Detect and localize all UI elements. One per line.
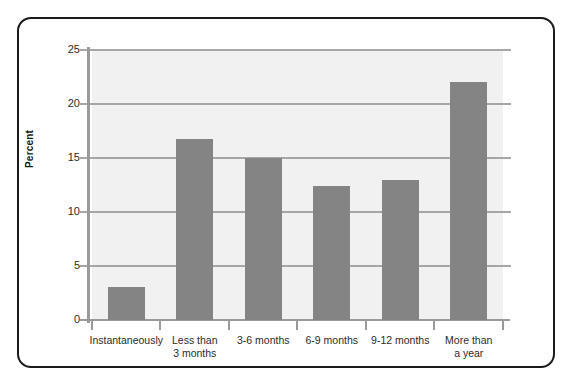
y-tick-5: 5: [44, 260, 80, 272]
y-tick-15: 15: [44, 152, 80, 164]
bar-less-than-3-months: [176, 139, 213, 320]
bar-more-than-a-year: [450, 82, 487, 320]
gridline-10: [80, 211, 511, 213]
y-tick-label-10: 10: [44, 206, 80, 217]
y-axis-title: Percent: [24, 130, 35, 168]
x-tick-4: [365, 321, 367, 330]
x-label-more-than-a-year: More than a year: [421, 334, 517, 359]
plot-area: [92, 50, 503, 320]
x-tick-3: [296, 321, 298, 330]
y-tick-label-20: 20: [44, 98, 80, 109]
bar-3-6-months: [245, 158, 282, 320]
y-tick-label-25: 25: [44, 44, 80, 55]
y-tick-label-0: 0: [44, 314, 80, 325]
x-tick-5: [433, 321, 435, 330]
y-tick-label-15: 15: [44, 152, 80, 163]
y-tick-10: 10: [44, 206, 80, 218]
x-tick-6: [502, 321, 504, 330]
bar-instantaneously: [108, 287, 145, 320]
x-tick-0: [91, 321, 93, 330]
y-tick-20: 20: [44, 98, 80, 110]
y-tick-25: 25: [44, 44, 80, 56]
y-tick-label-5: 5: [44, 260, 80, 271]
bar-chart-figure: 25 20 15 10 5 0 Percent Instantaneously …: [0, 0, 579, 390]
x-tick-1: [159, 321, 161, 330]
y-axis-line: [87, 47, 90, 323]
gridline-15: [80, 157, 511, 159]
x-tick-2: [228, 321, 230, 330]
bar-9-12-months: [382, 180, 419, 320]
gridline-20: [80, 103, 511, 105]
bar-6-9-months: [313, 186, 350, 320]
gridline-25: [80, 49, 511, 51]
y-tick-0: 0: [44, 314, 80, 326]
gridline-5: [80, 265, 511, 267]
